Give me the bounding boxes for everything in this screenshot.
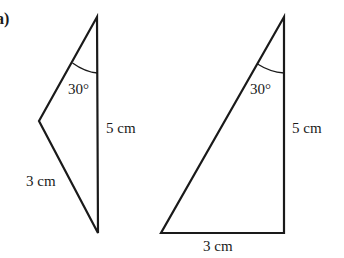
left-angle-label: 30° (68, 81, 89, 97)
right-angle-label: 30° (250, 81, 271, 97)
right-triangle: 30° 5 cm 3 cm (161, 17, 322, 254)
left-lower-side-label: 3 cm (26, 173, 56, 189)
right-triangle-outline (161, 17, 284, 233)
right-bottom-side-label: 3 cm (203, 238, 233, 254)
left-angle-arc (73, 63, 98, 73)
triangles-figure: a) 30° 5 cm 3 cm 30° 5 cm 3 cm (0, 0, 344, 258)
right-angle-arc (258, 64, 285, 73)
part-label: a) (0, 10, 9, 28)
left-triangle: 30° 5 cm 3 cm (26, 17, 136, 233)
left-triangle-outline (39, 17, 98, 233)
left-vertical-side-label: 5 cm (106, 120, 136, 136)
right-vertical-side-label: 5 cm (292, 120, 322, 136)
diagram-canvas: a) 30° 5 cm 3 cm 30° 5 cm 3 cm (0, 0, 344, 258)
